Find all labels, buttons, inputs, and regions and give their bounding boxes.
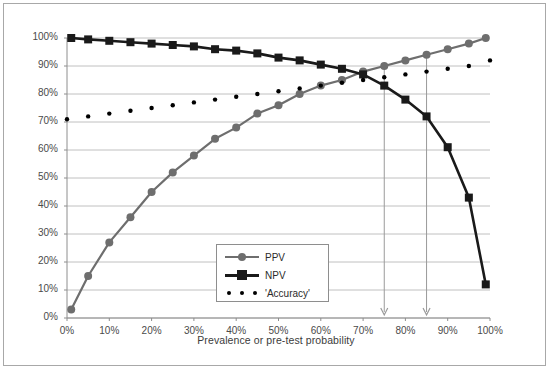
y-tick-label: 50%: [14, 171, 58, 182]
datapoint-'Accuracy': [488, 58, 492, 62]
datapoint-NPV: [275, 54, 283, 62]
datapoint-PPV: [169, 168, 177, 176]
datapoint-'Accuracy': [107, 111, 111, 115]
datapoint-NPV: [380, 82, 388, 90]
legend-item-accuracy: 'Accuracy': [225, 284, 310, 302]
datapoint-NPV: [232, 47, 240, 55]
legend-item-npv: NPV: [225, 266, 286, 284]
y-tick-label: 100%: [14, 31, 58, 42]
square-marker-icon: [225, 269, 259, 281]
datapoint-PPV: [482, 34, 490, 42]
legend-label-npv: NPV: [265, 270, 286, 281]
legend-label-accuracy: 'Accuracy': [265, 288, 310, 299]
datapoint-'Accuracy': [171, 103, 175, 107]
datapoint-'Accuracy': [276, 89, 280, 93]
x-tick-label: 60%: [301, 325, 341, 336]
datapoint-NPV: [423, 112, 431, 120]
y-tick-label: 20%: [14, 255, 58, 266]
x-tick-label: 30%: [174, 325, 214, 336]
datapoint-'Accuracy': [446, 67, 450, 71]
datapoint-PPV: [67, 306, 75, 314]
datapoint-PPV: [126, 213, 134, 221]
datapoint-NPV: [338, 65, 346, 73]
dot-marker-icon: [225, 287, 259, 299]
y-tick-label: 10%: [14, 283, 58, 294]
datapoint-PPV: [401, 56, 409, 64]
circle-marker-icon: [225, 251, 259, 263]
datapoint-'Accuracy': [319, 83, 323, 87]
x-tick-label: 90%: [428, 325, 468, 336]
datapoint-'Accuracy': [213, 97, 217, 101]
datapoint-PPV: [465, 40, 473, 48]
datapoint-NPV: [105, 37, 113, 45]
datapoint-'Accuracy': [192, 100, 196, 104]
x-tick-label: 80%: [385, 325, 425, 336]
datapoint-NPV: [296, 56, 304, 64]
datapoint-NPV: [67, 34, 75, 42]
datapoint-PPV: [253, 110, 261, 118]
datapoint-NPV: [169, 41, 177, 49]
chart-legend: PPV NPV 'Accuracy': [216, 244, 329, 302]
datapoint-NPV: [84, 35, 92, 43]
datapoint-PPV: [296, 90, 304, 98]
legend-item-ppv: PPV: [225, 248, 285, 266]
y-tick-label: 30%: [14, 227, 58, 238]
datapoint-NPV: [253, 49, 261, 57]
datapoint-PPV: [275, 101, 283, 109]
datapoint-'Accuracy': [424, 69, 428, 73]
datapoint-NPV: [359, 70, 367, 78]
datapoint-'Accuracy': [403, 72, 407, 76]
datapoint-'Accuracy': [297, 86, 301, 90]
datapoint-PPV: [148, 188, 156, 196]
datapoint-'Accuracy': [255, 92, 259, 96]
datapoint-NPV: [317, 61, 325, 69]
datapoint-NPV: [482, 280, 490, 288]
legend-label-ppv: PPV: [265, 252, 285, 263]
datapoint-'Accuracy': [234, 95, 238, 99]
datapoint-NPV: [465, 194, 473, 202]
y-tick-label: 0%: [14, 311, 58, 322]
datapoint-PPV: [423, 51, 431, 59]
datapoint-PPV: [211, 135, 219, 143]
y-tick-label: 80%: [14, 87, 58, 98]
datapoint-PPV: [190, 152, 198, 160]
datapoint-PPV: [105, 238, 113, 246]
y-tick-label: 40%: [14, 199, 58, 210]
datapoint-NPV: [401, 96, 409, 104]
datapoint-'Accuracy': [361, 78, 365, 82]
datapoint-PPV: [444, 45, 452, 53]
datapoint-NPV: [444, 143, 452, 151]
x-tick-label: 10%: [89, 325, 129, 336]
datapoint-'Accuracy': [128, 109, 132, 113]
datapoint-NPV: [211, 45, 219, 53]
datapoint-'Accuracy': [65, 117, 69, 121]
datapoint-'Accuracy': [340, 81, 344, 85]
y-tick-label: 70%: [14, 115, 58, 126]
x-tick-label: 50%: [259, 325, 299, 336]
x-tick-label: 0%: [47, 325, 87, 336]
datapoint-PPV: [84, 272, 92, 280]
x-tick-label: 100%: [470, 325, 510, 336]
datapoint-NPV: [190, 42, 198, 50]
x-tick-label: 40%: [216, 325, 256, 336]
y-tick-label: 60%: [14, 143, 58, 154]
datapoint-PPV: [380, 62, 388, 70]
x-tick-label: 70%: [343, 325, 383, 336]
datapoint-'Accuracy': [467, 64, 471, 68]
datapoint-'Accuracy': [86, 114, 90, 118]
datapoint-'Accuracy': [149, 106, 153, 110]
datapoint-NPV: [126, 38, 134, 46]
datapoint-'Accuracy': [382, 75, 386, 79]
datapoint-PPV: [232, 124, 240, 132]
chart-canvas: [0, 0, 552, 372]
x-tick-label: 20%: [132, 325, 172, 336]
datapoint-NPV: [148, 40, 156, 48]
y-tick-label: 90%: [14, 59, 58, 70]
